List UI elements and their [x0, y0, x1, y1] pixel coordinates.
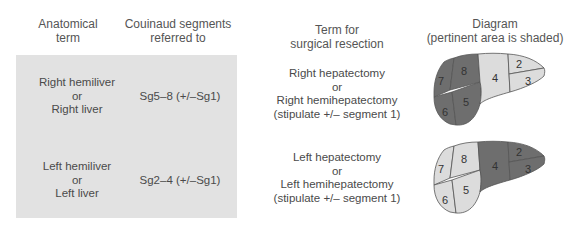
cell-line: Sg5–8 (+/–Sg1)	[130, 90, 230, 104]
header-line: (pertinent area is shaded)	[420, 31, 564, 45]
segment-label-3: 3	[525, 75, 531, 87]
header-line: referred to	[118, 31, 238, 45]
header-line: Term for	[272, 23, 402, 37]
cell-line: (stipulate +/– segment 1)	[262, 192, 412, 206]
segment-label-4: 4	[492, 160, 498, 172]
cell-line: Right hemiliver	[22, 76, 132, 90]
segment-label-8: 8	[461, 65, 467, 77]
row2-surgical-term: Left hepatectomy or Left hemihepatectomy…	[262, 151, 412, 205]
header-line: Diagram	[420, 17, 564, 31]
liver-diagram-left: 7 8 6 5 4 2 3	[432, 140, 547, 220]
segment-label-5: 5	[463, 184, 469, 196]
row1-anatomical-term: Right hemiliver or Right liver	[22, 76, 132, 117]
header-line: Anatomical	[28, 17, 108, 31]
cell-line: or	[22, 90, 132, 104]
segment-label-6: 6	[442, 106, 448, 118]
segment-label-4: 4	[492, 72, 498, 84]
cell-line: or	[262, 165, 412, 179]
header-line: surgical resection	[272, 37, 402, 51]
segment-label-5: 5	[463, 96, 469, 108]
cell-line: Left hemiliver	[22, 160, 132, 174]
liver-svg-right: 7 8 6 5 4 2 3	[432, 52, 547, 128]
segment-label-6: 6	[442, 194, 448, 206]
cell-line: Right hemihepatectomy	[262, 94, 412, 108]
liver-svg-left: 7 8 6 5 4 2 3	[432, 140, 547, 216]
cell-line: Right liver	[22, 103, 132, 117]
header-line: Couinaud segments	[118, 17, 238, 31]
segment-label-7: 7	[438, 75, 444, 87]
cell-line: Right hepatectomy	[262, 67, 412, 81]
liver-diagram-right: 7 8 6 5 4 2 3	[432, 52, 547, 132]
header-diagram: Diagram (pertinent area is shaded)	[420, 17, 564, 45]
cell-line: or	[262, 81, 412, 95]
cell-line: Left liver	[22, 187, 132, 201]
cell-line: Left hemihepatectomy	[262, 178, 412, 192]
cell-line: (stipulate +/– segment 1)	[262, 108, 412, 122]
segment-label-7: 7	[438, 163, 444, 175]
segment-label-8: 8	[461, 153, 467, 165]
cell-line: Left hepatectomy	[262, 151, 412, 165]
header-line: term	[28, 31, 108, 45]
cell-line: Sg2–4 (+/–Sg1)	[130, 174, 230, 188]
segment-label-2: 2	[516, 146, 522, 158]
row1-segments: Sg5–8 (+/–Sg1)	[130, 90, 230, 104]
row1-surgical-term: Right hepatectomy or Right hemihepatecto…	[262, 67, 412, 121]
row2-segments: Sg2–4 (+/–Sg1)	[130, 174, 230, 188]
segment-label-2: 2	[516, 58, 522, 70]
row2-anatomical-term: Left hemiliver or Left liver	[22, 160, 132, 201]
cell-line: or	[22, 174, 132, 188]
segment-label-3: 3	[525, 163, 531, 175]
header-surgical-term: Term for surgical resection	[272, 23, 402, 51]
header-couinaud-segments: Couinaud segments referred to	[118, 17, 238, 45]
header-anatomical-term: Anatomical term	[28, 17, 108, 45]
